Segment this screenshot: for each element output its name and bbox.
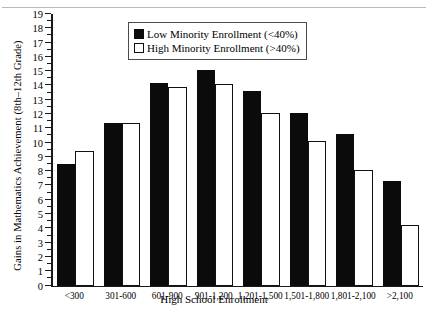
legend-swatch-hollow-square-icon	[134, 43, 144, 53]
y-tick-major	[45, 199, 51, 200]
y-tick-label: 16	[33, 51, 44, 62]
bar-high-minority	[168, 87, 186, 286]
y-tick-label: 3	[38, 237, 43, 248]
y-tick-major	[45, 113, 51, 114]
bar-low-minority	[197, 70, 215, 286]
y-tick-major	[45, 227, 51, 228]
legend-swatch-filled-square-icon	[134, 29, 144, 39]
bar-chart-figure: Gains in Mathematics Achievement (8th–12…	[0, 0, 428, 335]
y-tick-label: 0	[38, 280, 43, 291]
scan-artifact-line	[2, 7, 426, 8]
bar-high-minority	[308, 141, 326, 285]
y-tick-minor	[47, 134, 51, 135]
y-tick-label: 7	[38, 180, 43, 191]
y-axis-title: Gains in Mathematics Achievement (8th–12…	[12, 21, 23, 291]
y-tick-minor	[47, 106, 51, 107]
bar-high-minority	[215, 84, 233, 285]
x-axis-line	[51, 286, 423, 288]
y-tick-label: 6	[38, 194, 43, 205]
y-tick-label: 15	[33, 66, 44, 77]
y-tick-label: 1	[38, 266, 43, 277]
y-tick-label: 5	[38, 209, 43, 220]
y-tick-minor	[47, 263, 51, 264]
y-tick-major	[45, 170, 51, 171]
y-tick-label: 19	[33, 9, 44, 20]
y-tick-minor	[47, 63, 51, 64]
y-tick-major	[45, 13, 51, 14]
y-tick-minor	[47, 120, 51, 121]
y-tick-minor	[47, 220, 51, 221]
bar-low-minority	[104, 123, 122, 286]
y-tick-minor	[47, 235, 51, 236]
y-tick-minor	[47, 49, 51, 50]
y-tick-minor	[47, 163, 51, 164]
bar-low-minority	[57, 164, 75, 285]
y-tick-minor	[47, 20, 51, 21]
y-tick-minor	[47, 206, 51, 207]
y-tick-minor	[47, 249, 51, 250]
bar-low-minority	[336, 134, 354, 285]
y-tick-label: 11	[33, 123, 43, 134]
y-tick-minor	[47, 77, 51, 78]
bar-high-minority	[122, 123, 140, 286]
y-tick-major	[45, 127, 51, 128]
y-tick-major	[45, 99, 51, 100]
y-tick-major	[45, 285, 51, 286]
y-tick-major	[45, 70, 51, 71]
bar-low-minority	[150, 83, 168, 286]
y-tick-label: 2	[38, 251, 43, 262]
y-tick-major	[45, 270, 51, 271]
y-tick-label: 13	[33, 94, 44, 105]
y-tick-label: 14	[33, 80, 44, 91]
chart-legend: Low Minority Enrollment (<40%) High Mino…	[128, 22, 307, 60]
y-tick-major	[45, 184, 51, 185]
y-tick-major	[45, 142, 51, 143]
bar-low-minority	[383, 181, 401, 285]
y-tick-label: 12	[33, 109, 44, 120]
bar-high-minority	[354, 170, 372, 286]
y-tick-minor	[47, 149, 51, 150]
y-tick-minor	[47, 92, 51, 93]
y-tick-minor	[47, 277, 51, 278]
y-tick-major	[45, 42, 51, 43]
y-tick-minor	[47, 34, 51, 35]
bar-low-minority	[243, 91, 261, 285]
y-tick-label: 9	[38, 151, 43, 162]
y-tick-major	[45, 256, 51, 257]
bar-high-minority	[75, 151, 93, 285]
y-tick-label: 10	[33, 137, 44, 148]
legend-item-low-minority: Low Minority Enrollment (<40%)	[134, 27, 300, 41]
y-tick-major	[45, 56, 51, 57]
legend-label-low-minority: Low Minority Enrollment (<40%)	[147, 28, 298, 40]
y-tick-major	[45, 84, 51, 85]
y-tick-minor	[47, 192, 51, 193]
y-axis-line	[51, 14, 53, 287]
y-tick-major	[45, 27, 51, 28]
y-tick-label: 8	[38, 166, 43, 177]
y-tick-minor	[47, 177, 51, 178]
bar-high-minority	[401, 225, 419, 285]
bar-high-minority	[261, 113, 279, 286]
y-tick-major	[45, 156, 51, 157]
y-tick-label: 18	[33, 23, 44, 34]
legend-item-high-minority: High Minority Enrollment (>40%)	[134, 41, 300, 55]
x-axis-title: High School Enrollment	[0, 293, 428, 305]
y-tick-major	[45, 242, 51, 243]
legend-label-high-minority: High Minority Enrollment (>40%)	[147, 42, 300, 54]
y-tick-major	[45, 213, 51, 214]
bar-low-minority	[290, 113, 308, 286]
y-tick-label: 4	[38, 223, 43, 234]
y-tick-label: 17	[33, 37, 44, 48]
